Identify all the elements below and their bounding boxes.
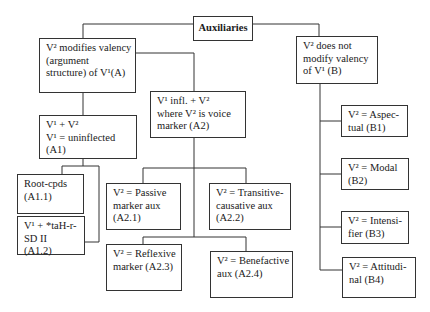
node-line: V¹ + V² bbox=[46, 119, 132, 132]
node-line: (A2.1) bbox=[113, 212, 176, 225]
node-B-does-not-modify-valency: V² does not modify valency of V¹ (B) bbox=[296, 36, 378, 84]
node-A2-voice-marker: V¹ infl. + V² where V² is voice marker (… bbox=[150, 91, 246, 138]
node-A2-3-reflexive: V² = Reflexive marker (A2.3) bbox=[106, 244, 182, 291]
node-line: V² modifies valency bbox=[46, 42, 131, 55]
node-auxiliaries-root: Auxiliaries bbox=[193, 16, 253, 41]
node-line: marker aux bbox=[113, 200, 176, 213]
node-line: fier (B3) bbox=[348, 228, 404, 241]
node-line: (A2.2) bbox=[216, 212, 286, 225]
node-line: V¹ = uninflected bbox=[46, 132, 132, 145]
node-line: V² = Modal bbox=[348, 162, 404, 175]
node-line: where V² is voice bbox=[157, 108, 241, 121]
node-line: of V¹ (B) bbox=[303, 65, 373, 78]
node-B3-intensifier: V² = Intensi- fier (B3) bbox=[341, 211, 409, 244]
node-line: V¹ infl. + V² bbox=[157, 95, 241, 108]
node-A1-uninflected: V¹ + V² V¹ = uninflected (A1) bbox=[39, 115, 137, 159]
node-line: (B2) bbox=[348, 175, 404, 188]
node-line: tual (B1) bbox=[348, 122, 403, 135]
node-line: Root-cpds bbox=[24, 178, 79, 191]
node-line: marker (A2.3) bbox=[113, 261, 177, 274]
node-line: (A1.1) bbox=[24, 191, 79, 204]
node-line: causative aux bbox=[216, 200, 286, 213]
node-line: (A1.2) bbox=[24, 245, 80, 258]
node-B2-modal: V² = Modal (B2) bbox=[341, 158, 409, 190]
node-line: modify valency bbox=[303, 53, 373, 66]
node-line: V² = Aspec- bbox=[348, 109, 403, 122]
edge-root-A bbox=[83, 24, 193, 38]
edge-root-B bbox=[252, 24, 319, 36]
node-line: V² = Transitive- bbox=[216, 187, 286, 200]
node-line: V² = Passive bbox=[113, 187, 176, 200]
node-line: V² = Attitudi- bbox=[349, 261, 411, 274]
node-line: (A1) bbox=[46, 144, 132, 157]
node-line: V² does not bbox=[303, 40, 373, 53]
node-A1-1-root-cpds: Root-cpds (A1.1) bbox=[17, 174, 84, 214]
node-line: structure) of V¹(A) bbox=[46, 67, 131, 80]
node-line: (argument bbox=[46, 55, 131, 68]
node-A1-2-taH-r: V¹ + *taH-r- SD II (A1.2) bbox=[17, 216, 85, 255]
node-line: V¹ + *taH-r- bbox=[24, 220, 80, 233]
edge-A-A2 bbox=[135, 53, 194, 91]
node-line: V² = Benefactive bbox=[217, 255, 288, 268]
node-line: marker (A2) bbox=[157, 120, 241, 133]
node-A2-1-passive: V² = Passive marker aux (A2.1) bbox=[106, 183, 181, 230]
node-line: SD II bbox=[24, 233, 80, 246]
node-line: V² = Reflexive bbox=[113, 248, 177, 261]
node-A2-4-benefactive: V² = Benefactive aux (A2.4) bbox=[210, 251, 293, 298]
node-label: Auxiliaries bbox=[199, 22, 248, 33]
auxiliaries-tree-diagram: Auxiliaries V² modifies valency (argumen… bbox=[0, 0, 430, 312]
node-line: nal (B4) bbox=[349, 274, 411, 287]
node-A2-2-transitive-causative: V² = Transitive- causative aux (A2.2) bbox=[209, 183, 291, 230]
node-line: aux (A2.4) bbox=[217, 268, 288, 281]
node-B1-aspectual: V² = Aspec- tual (B1) bbox=[341, 105, 408, 137]
node-line: V² = Intensi- bbox=[348, 215, 404, 228]
node-A-modifies-valency: V² modifies valency (argument structure)… bbox=[39, 38, 136, 93]
node-B4-attitudinal: V² = Attitudi- nal (B4) bbox=[342, 257, 416, 298]
